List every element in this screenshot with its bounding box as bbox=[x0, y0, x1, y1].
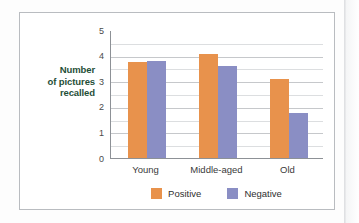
legend-item-negative[interactable]: Negative bbox=[227, 188, 282, 199]
gridline-minor bbox=[111, 44, 323, 45]
y-axis-tick-label: 3 bbox=[88, 78, 104, 87]
y-axis-title-line-1: Number bbox=[17, 64, 95, 76]
bar-old-positive bbox=[270, 79, 289, 158]
legend-swatch-positive-icon bbox=[151, 188, 162, 199]
y-axis-tick-label: 4 bbox=[88, 52, 104, 61]
x-axis-tick-label: Middle-aged bbox=[177, 164, 257, 175]
figure-root: Number of pictures recalled 543210 Young… bbox=[0, 0, 359, 223]
bar-old-negative bbox=[289, 113, 308, 158]
bar-young-positive bbox=[128, 62, 147, 158]
x-axis-tick-label: Old bbox=[248, 164, 328, 175]
plot-area bbox=[110, 31, 323, 159]
y-axis-tick-label: 5 bbox=[88, 27, 104, 36]
x-axis-tick-label: Young bbox=[106, 164, 186, 175]
y-axis-title-line-2: of pictures bbox=[17, 76, 95, 88]
y-axis-tick-label: 1 bbox=[88, 129, 104, 138]
bar-young-negative bbox=[147, 61, 166, 158]
chart-legend: Positive Negative bbox=[110, 188, 323, 199]
y-axis-tick-label: 2 bbox=[88, 103, 104, 112]
legend-item-positive[interactable]: Positive bbox=[151, 188, 201, 199]
bar-middle-aged-negative bbox=[218, 66, 237, 158]
bar-middle-aged-positive bbox=[199, 54, 218, 158]
legend-label-negative: Negative bbox=[244, 188, 282, 199]
y-axis-tick-label: 0 bbox=[88, 155, 104, 164]
y-axis-title-line-3: recalled bbox=[17, 87, 95, 99]
y-axis-title: Number of pictures recalled bbox=[17, 64, 95, 99]
legend-swatch-negative-icon bbox=[227, 188, 238, 199]
page-edge-shade bbox=[346, 0, 359, 223]
legend-label-positive: Positive bbox=[168, 188, 201, 199]
